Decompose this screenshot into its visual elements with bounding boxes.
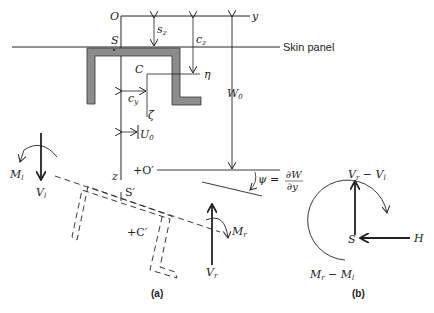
net-shear-label: Vr − Vl	[348, 168, 386, 182]
horizontal-force-label: H	[413, 232, 424, 245]
skin-panel-label: Skin panel	[283, 41, 334, 53]
psi-numerator: ∂W	[286, 169, 302, 180]
panel-a-caption: (a)	[151, 288, 163, 299]
cy-label: cy	[128, 92, 139, 106]
eta-label: η	[204, 68, 211, 81]
centroid-label: C	[135, 63, 144, 76]
left-shear-label: Vl	[36, 186, 46, 200]
w0-label: W0	[227, 87, 243, 101]
left-moment-label: Ml	[9, 168, 24, 182]
psi-equation: ψ =	[258, 173, 279, 186]
left-moment-arrow	[20, 145, 57, 162]
sz-label: sz	[157, 23, 167, 37]
shear-center-label: S	[111, 34, 119, 47]
net-moment-arrow	[308, 180, 387, 260]
panel-b: Vr − Vl S H Mr − Ml (b)	[308, 168, 424, 299]
panel-a: O y z Skin panel S sz cz C η ζ cy U0 W0	[9, 10, 334, 299]
right-shear-label: Vr	[206, 266, 218, 280]
stringer-cross-section	[87, 48, 201, 105]
psi-angle-arc	[250, 172, 256, 190]
panel-b-caption: (b)	[352, 288, 365, 299]
net-moment-label: Mr − Ml	[309, 268, 354, 282]
origin-label: O	[110, 10, 119, 23]
beam-deflection-diagram: O y z Skin panel S sz cz C η ζ cy U0 W0	[0, 0, 434, 313]
centroid-prime-label: +C′	[127, 226, 148, 239]
y-axis-label: y	[251, 10, 259, 23]
point-s-label: S	[348, 233, 356, 246]
cz-label: cz	[196, 33, 206, 47]
origin-prime-label: +O′	[133, 164, 154, 177]
shear-center-prime-label: S′	[125, 186, 136, 199]
slope-line	[202, 182, 262, 196]
z-axis-label: z	[111, 170, 118, 183]
right-moment-label: Mr	[231, 225, 247, 239]
zeta-label: ζ	[148, 109, 155, 122]
psi-denominator: ∂y	[287, 181, 298, 192]
u0-label: U0	[140, 128, 154, 142]
shear-center-dot	[113, 49, 115, 51]
